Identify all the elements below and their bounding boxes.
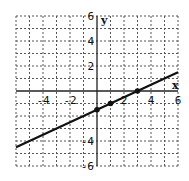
- data-point: [135, 88, 141, 94]
- x-tick-label: -4: [36, 94, 50, 107]
- x-tick-label: 6: [175, 94, 182, 107]
- y-tick-label: 4: [87, 35, 94, 48]
- y-axis-label: y: [100, 14, 108, 27]
- x-axis-label: x: [172, 79, 179, 92]
- data-point: [94, 107, 100, 113]
- y-tick-label: 6: [87, 10, 94, 23]
- x-tick-label: 4: [148, 94, 155, 107]
- y-tick-label: -4: [81, 135, 95, 148]
- data-point: [108, 101, 114, 107]
- coordinate-plane: -4-2246642-4-6 x y: [0, 0, 189, 181]
- axes: [16, 16, 178, 166]
- y-tick-label: 2: [87, 60, 94, 73]
- x-tick-label: -2: [63, 94, 76, 107]
- y-tick-label: -6: [81, 160, 94, 173]
